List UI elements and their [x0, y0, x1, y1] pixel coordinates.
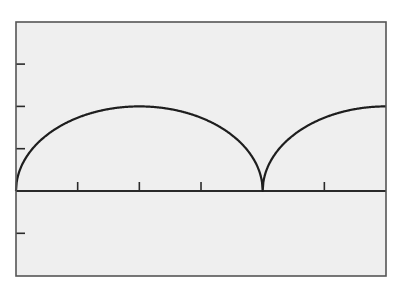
plot-area	[16, 22, 386, 276]
chart	[0, 0, 400, 293]
chart-canvas	[0, 0, 400, 293]
